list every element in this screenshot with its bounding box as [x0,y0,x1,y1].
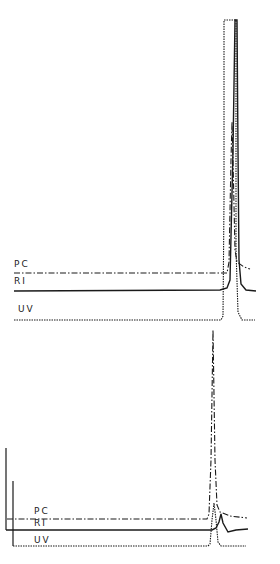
upper-chromatogram: PCRIUV [14,20,256,320]
trace-pc [7,330,247,519]
trace-label-uv: UV [34,535,51,545]
trace-ri [14,20,256,291]
trace-label-ri: RI [34,518,47,528]
trace-uv [14,20,255,320]
trace-pc [14,122,250,273]
trace-label-uv: UV [18,304,35,314]
trace-label-pc: PC [34,506,50,516]
trace-label-pc: PC [14,259,30,269]
chromatogram-figure: PCRIUV PCRIUV [0,0,280,564]
trace-label-ri: RI [14,276,27,286]
lower-chromatogram: PCRIUV [6,330,248,546]
